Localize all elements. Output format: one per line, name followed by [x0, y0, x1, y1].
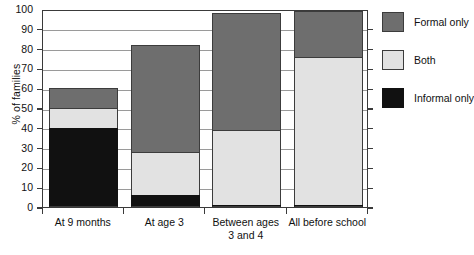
bar-segment-both	[49, 108, 118, 128]
y-axis-tick-mark-right	[367, 128, 373, 129]
x-axis-tick-mark	[367, 208, 368, 214]
y-axis-tick-label: 0	[0, 201, 33, 213]
x-axis-label-line: At age 3	[124, 216, 206, 229]
y-axis-tick-mark	[37, 89, 42, 90]
y-axis-tick-mark-right	[367, 69, 373, 70]
legend-label: Formal only	[414, 16, 469, 28]
y-axis-tick-label: 80	[0, 43, 33, 55]
x-axis-tick-mark	[286, 208, 287, 214]
bar-segment-both	[294, 57, 363, 206]
y-axis-tick-mark-right	[367, 49, 373, 50]
bar-segment-informal	[49, 128, 118, 207]
y-axis-tick-mark-right	[367, 148, 373, 149]
legend-swatch-formal	[382, 12, 404, 32]
y-axis-tick-label: 100	[0, 3, 33, 15]
y-axis-tick-label: 10	[0, 181, 33, 193]
legend-label: Informal only	[414, 92, 474, 104]
bar-segment-formal	[131, 45, 200, 152]
y-axis-tick-label: 30	[0, 142, 33, 154]
bar-segment-both	[131, 152, 200, 196]
chart-legend: Formal onlyBothInformal only	[382, 12, 464, 126]
bar-segment-formal	[294, 11, 363, 57]
bar-segment-informal	[131, 195, 200, 207]
y-axis-tick-mark	[37, 49, 42, 50]
bar-stack	[131, 10, 200, 207]
y-axis-tick-mark	[37, 128, 42, 129]
legend-item[interactable]: Formal only	[382, 12, 464, 32]
bar-segment-both	[212, 130, 281, 205]
bar-stack	[49, 10, 118, 207]
x-axis-tick-label: All before school	[287, 216, 369, 229]
y-axis-tick-mark-right	[367, 188, 373, 189]
y-axis-tick-mark	[37, 168, 42, 169]
y-axis-tick-label: 90	[0, 23, 33, 35]
bar-segment-informal	[212, 205, 281, 207]
y-axis-tick-mark-right	[367, 108, 373, 109]
x-axis-label-line: Between ages	[205, 216, 287, 229]
y-axis-tick-label: 40	[0, 122, 33, 134]
x-axis-tick-mark	[204, 208, 205, 214]
x-axis-label-line: 3 and 4	[205, 229, 287, 242]
bar-stack	[212, 10, 281, 207]
legend-item[interactable]: Both	[382, 50, 464, 70]
bar-segment-formal	[49, 88, 118, 108]
x-axis-tick-mark	[123, 208, 124, 214]
plot-area	[42, 10, 368, 208]
legend-item[interactable]: Informal only	[382, 88, 464, 108]
y-axis-tick-mark-right	[367, 89, 373, 90]
y-axis-tick-label: 20	[0, 161, 33, 173]
y-axis-tick-mark	[37, 29, 42, 30]
x-axis-label-line: At 9 months	[42, 216, 124, 229]
x-axis-tick-label: At 9 months	[42, 216, 124, 229]
y-axis-tick-mark	[37, 108, 42, 109]
bar-segment-formal	[212, 13, 281, 130]
y-axis-tick-mark-right	[367, 168, 373, 169]
x-axis-label-line: All before school	[287, 216, 369, 229]
y-axis-tick-label: 60	[0, 82, 33, 94]
y-axis-tick-mark	[37, 69, 42, 70]
bar-segment-informal	[294, 205, 363, 207]
y-axis-tick-label: 70	[0, 62, 33, 74]
y-axis-tick-label: 50	[0, 102, 33, 114]
bar-stack	[294, 10, 363, 207]
y-axis-tick-mark-right	[367, 29, 373, 30]
y-axis-tick-mark	[37, 148, 42, 149]
legend-swatch-informal	[382, 88, 404, 108]
x-axis-tick-label: Between ages3 and 4	[205, 216, 287, 241]
x-axis-tick-mark-origin	[42, 208, 43, 214]
x-axis-tick-label: At age 3	[124, 216, 206, 229]
y-axis-tick-mark	[37, 188, 42, 189]
legend-label: Both	[414, 54, 436, 66]
legend-swatch-both	[382, 50, 404, 70]
